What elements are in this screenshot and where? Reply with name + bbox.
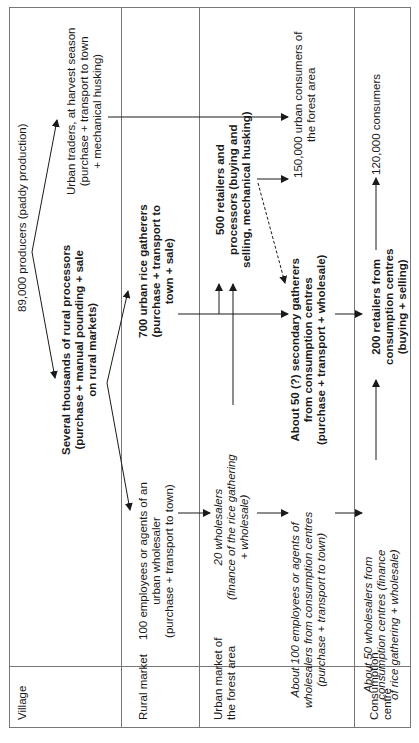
flow-arrows bbox=[0, 0, 419, 743]
